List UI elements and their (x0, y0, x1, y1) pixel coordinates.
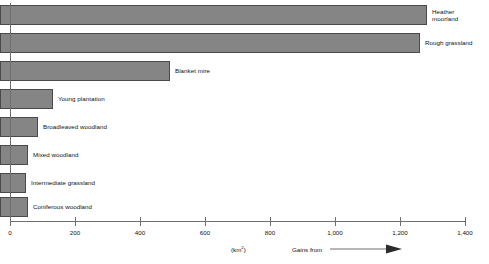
bar-row: Broadleaved woodland (0, 117, 107, 137)
bar-label: Young plantation (58, 95, 105, 102)
x-axis-tick-label: 200 (70, 229, 80, 236)
x-axis-tick-label: 0 (8, 229, 11, 236)
unit-caption-suffix: ) (244, 246, 246, 253)
bar-row: Young plantation (0, 89, 105, 109)
x-axis-tick-label: 1,200 (392, 229, 407, 236)
x-axis-tick (465, 217, 466, 226)
bar-mixed-woodland[interactable] (0, 145, 28, 165)
bar-label: Intermediate grassland (31, 179, 95, 186)
x-axis-unit-caption: (km2) (231, 245, 246, 253)
plot-area: Heather moorland Rough grassland Blanket… (0, 0, 489, 220)
x-axis-tick-label: 600 (200, 229, 210, 236)
x-axis-tick-label: 400 (135, 229, 145, 236)
x-axis-line (10, 221, 466, 222)
bar-coniferous-woodland[interactable] (0, 197, 28, 217)
bar-label: Heather moorland (432, 8, 458, 23)
bar-row: Intermediate grassland (0, 173, 95, 193)
bar-row: Coniferous woodland (0, 197, 92, 217)
right-arrow-icon (330, 244, 404, 254)
bar-row: Rough grassland (0, 33, 473, 53)
bar-heather-moorland[interactable] (0, 5, 427, 25)
x-axis-tick (10, 217, 11, 226)
bar-row: Blanket mire (0, 61, 210, 81)
x-axis-tick-label: 1,400 (457, 229, 472, 236)
x-axis-tick (75, 217, 76, 226)
x-axis-tick (270, 217, 271, 226)
bar-label: Blanket mire (175, 67, 210, 74)
bar-label: Broadleaved woodland (43, 123, 107, 130)
bar-row: Heather moorland (0, 5, 458, 25)
bar-row: Mixed woodland (0, 145, 78, 165)
x-axis-tick-label: 1,000 (327, 229, 342, 236)
x-axis-tick (140, 217, 141, 226)
bar-broadleaved-woodland[interactable] (0, 117, 38, 137)
bar-blanket-mire[interactable] (0, 61, 170, 81)
bar-rough-grassland[interactable] (0, 33, 420, 53)
x-axis-tick (335, 217, 336, 226)
gains-from-legend: Gains from (292, 244, 404, 254)
bar-label: Coniferous woodland (33, 203, 92, 210)
bar-label: Mixed woodland (33, 151, 78, 158)
bar-label: Rough grassland (425, 39, 473, 46)
y-axis-line (10, 3, 11, 221)
horizontal-bar-chart: Heather moorland Rough grassland Blanket… (0, 0, 489, 264)
x-axis-tick (400, 217, 401, 226)
gains-from-label: Gains from (292, 246, 322, 253)
unit-caption-prefix: (km (231, 246, 241, 253)
x-axis-tick (205, 217, 206, 226)
bar-intermediate-grassland[interactable] (0, 173, 26, 193)
x-axis-tick-label: 800 (265, 229, 275, 236)
bar-young-plantation[interactable] (0, 89, 53, 109)
